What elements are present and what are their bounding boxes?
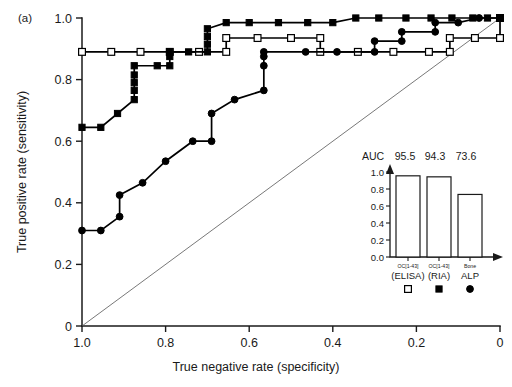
roc-point-2 — [398, 28, 405, 35]
roc-point-2 — [476, 15, 483, 22]
roc-point-0 — [223, 48, 230, 55]
roc-point-0 — [288, 35, 295, 42]
roc-point-1 — [204, 49, 210, 55]
inset-y-ticks: 1.00.80.60.40.20.0 — [371, 167, 390, 263]
roc-point-1 — [275, 20, 281, 26]
roc-point-2 — [139, 179, 146, 186]
roc-point-2 — [260, 48, 267, 55]
roc-point-1 — [353, 15, 359, 21]
roc-point-0 — [426, 48, 433, 55]
y-tick-label: 0 — [65, 320, 72, 334]
inset-legend-marker-1 — [436, 286, 442, 292]
inset-legend-marker-0 — [405, 286, 412, 293]
roc-point-1 — [79, 124, 85, 130]
roc-point-0 — [317, 35, 324, 42]
roc-point-1 — [131, 80, 137, 86]
roc-point-2 — [116, 213, 123, 220]
roc-point-2 — [260, 87, 267, 94]
roc-point-1 — [98, 124, 104, 130]
roc-point-0 — [79, 48, 86, 55]
inset-cat-bottom-0: (ELISA) — [391, 270, 424, 281]
inset-auc-barchart: AUC 95.5 94.3 73.6 1.00.80.60.40.20.0 OC… — [362, 150, 503, 292]
inset-y-tick-label: 0.6 — [371, 201, 384, 212]
roc-point-2 — [371, 48, 378, 55]
roc-point-1 — [330, 20, 336, 26]
roc-point-1 — [114, 110, 120, 116]
y-tick-label: 0.8 — [55, 73, 72, 87]
x-axis-ticks: 1.00.80.60.40.20 — [73, 326, 503, 350]
roc-point-2 — [455, 19, 462, 26]
roc-point-1 — [131, 97, 137, 103]
roc-point-1 — [167, 63, 173, 69]
roc-point-2 — [208, 138, 215, 145]
inset-cat-top-1: OC[1-43] — [428, 263, 450, 269]
x-tick-label: 0.8 — [157, 336, 174, 350]
roc-point-0 — [472, 35, 479, 42]
y-axis-title: True positive rate (sensitivity) — [15, 91, 29, 253]
x-tick-label: 0.2 — [408, 336, 425, 350]
x-tick-label: 1.0 — [73, 336, 90, 350]
roc-point-2 — [260, 62, 267, 69]
roc-point-0 — [446, 35, 453, 42]
roc-point-1 — [204, 33, 210, 39]
roc-point-1 — [131, 72, 137, 78]
roc-point-1 — [154, 63, 160, 69]
inset-y-tick-label: 0.4 — [371, 218, 384, 229]
roc-point-0 — [137, 48, 144, 55]
roc-point-0 — [223, 35, 230, 42]
inset-y-tick-label: 0.8 — [371, 184, 384, 195]
roc-point-1 — [204, 26, 210, 32]
inset-auc-value-2: 73.6 — [456, 150, 477, 162]
y-tick-label: 0.2 — [55, 258, 72, 272]
inset-legend-marker-2 — [467, 286, 474, 293]
inset-cat-bottom-2: ALP — [461, 270, 479, 281]
x-tick-label: 0.4 — [324, 336, 341, 350]
inset-auc-label: AUC — [362, 150, 385, 162]
roc-point-2 — [371, 38, 378, 45]
roc-point-1 — [223, 20, 229, 26]
inset-auc-value-1: 94.3 — [425, 150, 446, 162]
roc-point-2 — [116, 192, 123, 199]
roc-point-2 — [334, 48, 341, 55]
inset-bar-1 — [427, 177, 451, 257]
y-tick-label: 1.0 — [55, 12, 72, 26]
roc-series-0 — [79, 15, 504, 56]
roc-point-1 — [449, 15, 455, 21]
roc-point-1 — [131, 87, 137, 93]
inset-y-tick-label: 0.0 — [371, 252, 384, 263]
roc-point-2 — [79, 227, 86, 234]
inset-bar-0 — [396, 176, 420, 257]
roc-point-2 — [398, 38, 405, 45]
roc-point-0 — [108, 48, 115, 55]
roc-point-1 — [204, 41, 210, 47]
roc-point-1 — [403, 15, 409, 21]
y-tick-label: 0.4 — [55, 196, 72, 210]
x-tick-label: 0 — [497, 336, 504, 350]
roc-point-2 — [97, 227, 104, 234]
roc-point-2 — [432, 28, 439, 35]
roc-point-2 — [302, 48, 309, 55]
y-axis-ticks: 00.20.40.60.81.0 — [55, 12, 82, 334]
y-tick-label: 0.6 — [55, 135, 72, 149]
inset-cat-top-2: Bone — [464, 263, 476, 269]
roc-point-0 — [390, 48, 397, 55]
roc-point-0 — [446, 48, 453, 55]
inset-legend-markers — [405, 286, 474, 293]
roc-point-2 — [432, 19, 439, 26]
inset-auc-value-0: 95.5 — [395, 150, 416, 162]
inset-cat-bottom-1: (RIA) — [428, 270, 450, 281]
roc-point-2 — [208, 110, 215, 117]
panel-label: (a) — [18, 12, 32, 24]
inset-y-tick-label: 0.2 — [371, 235, 384, 246]
roc-figure: (a) 00.20.40.60.81.0 1.00.80.60.40.20 Tr… — [0, 0, 512, 387]
roc-point-2 — [497, 15, 504, 22]
roc-point-2 — [189, 138, 196, 145]
inset-bars — [396, 176, 482, 261]
roc-point-1 — [131, 63, 137, 69]
roc-point-2 — [162, 158, 169, 165]
inset-y-tick-label: 1.0 — [371, 167, 384, 178]
x-axis-title: True negative rate (specificity) — [173, 360, 340, 374]
roc-point-0 — [497, 35, 504, 42]
inset-x-arrow — [493, 253, 503, 261]
inset-bar-2 — [458, 194, 482, 257]
